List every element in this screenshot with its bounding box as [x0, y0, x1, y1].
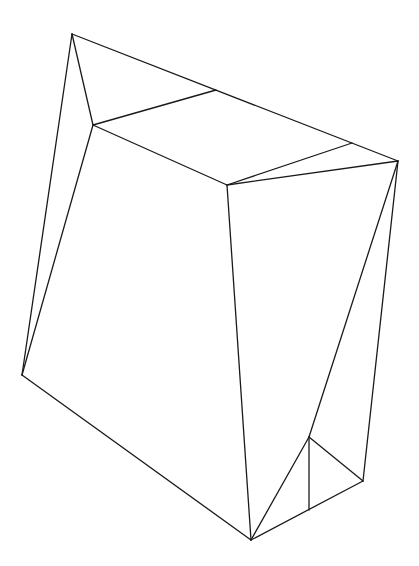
edge-BC — [93, 90, 216, 125]
edge-AB — [72, 34, 93, 125]
edge-FE — [227, 161, 398, 185]
edge-AG — [22, 34, 72, 375]
edge-BF — [93, 125, 227, 185]
edge-BG — [22, 125, 93, 375]
edge-group — [22, 34, 398, 540]
edge-AE — [72, 34, 398, 161]
edge-IK — [309, 437, 363, 481]
edge-DF — [227, 143, 352, 185]
edge-EI — [309, 161, 398, 437]
edge-EK — [363, 161, 398, 481]
polyhedron-wireframe — [0, 0, 419, 566]
edge-GH — [22, 375, 251, 540]
edge-FH — [227, 185, 251, 540]
